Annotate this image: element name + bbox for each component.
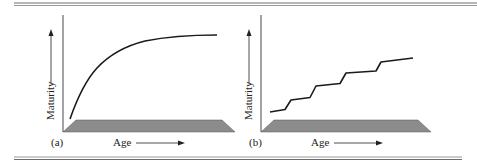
arrow-right-icon <box>376 141 383 146</box>
arrow-right-icon <box>178 141 185 146</box>
bottom-rule <box>14 157 462 160</box>
y-axis-label: Maturity <box>242 81 254 120</box>
panel-b: Maturity (b) Age <box>242 15 431 149</box>
maturity-step-curve <box>270 58 413 112</box>
panel-a: Maturity (a) Age <box>44 15 235 149</box>
base-platform <box>261 120 431 132</box>
y-axis-arrow <box>247 29 252 84</box>
maturity-curve <box>70 35 217 119</box>
y-axis-label: Maturity <box>44 81 56 120</box>
panel-tag: (a) <box>51 136 64 149</box>
top-rule <box>14 3 477 6</box>
x-axis-label: Age <box>311 136 329 148</box>
y-axis-arrow <box>49 29 54 84</box>
panel-tag: (b) <box>249 136 262 149</box>
base-platform <box>63 120 235 132</box>
arrow-up-icon <box>49 29 54 36</box>
figure-canvas: Maturity (a) Age Maturity (b) Age <box>0 0 477 165</box>
x-axis-label: Age <box>113 136 131 148</box>
x-axis-arrow <box>334 141 383 146</box>
x-axis-arrow <box>136 141 185 146</box>
arrow-up-icon <box>247 29 252 36</box>
